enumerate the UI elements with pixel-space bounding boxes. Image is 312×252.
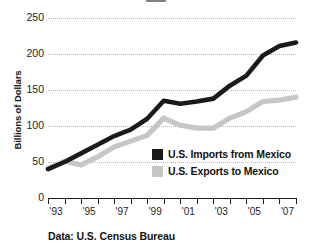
- x-tick-label: '95: [74, 206, 104, 217]
- legend: U.S. Imports from Mexico U.S. Exports to…: [152, 146, 291, 180]
- x-tick-label: '07: [272, 206, 302, 217]
- x-tick: [164, 198, 165, 204]
- y-tick-label: 250: [4, 11, 44, 23]
- legend-label-imports: U.S. Imports from Mexico: [168, 148, 291, 160]
- x-tick: [180, 198, 181, 204]
- x-tick: [230, 198, 231, 204]
- y-axis-tick-labels: 050100150200250: [2, 18, 44, 198]
- x-tick: [263, 198, 264, 204]
- y-tick-label: 50: [4, 155, 44, 167]
- x-tick-label: '93: [41, 206, 71, 217]
- x-tick: [246, 198, 247, 204]
- x-tick: [296, 198, 297, 204]
- x-tick: [98, 198, 99, 204]
- x-tick: [65, 198, 66, 204]
- y-tick-label: 100: [4, 119, 44, 131]
- x-tick: [114, 198, 115, 204]
- x-tick-label: '01: [173, 206, 203, 217]
- x-tick: [147, 198, 148, 204]
- source-note: Data: U.S. Census Bureau: [48, 230, 175, 242]
- x-tick-label: '03: [206, 206, 236, 217]
- x-tick-label: '99: [140, 206, 170, 217]
- x-tick: [197, 198, 198, 204]
- x-axis-line: [48, 198, 296, 199]
- x-tick: [131, 198, 132, 204]
- x-tick-label: '05: [239, 206, 269, 217]
- cropped-title-sliver: [146, 0, 166, 2]
- y-tick-label: 150: [4, 83, 44, 95]
- legend-item-imports: U.S. Imports from Mexico: [152, 146, 291, 162]
- y-tick-label: 0: [4, 191, 44, 203]
- x-tick: [213, 198, 214, 204]
- legend-swatch-exports: [152, 166, 163, 177]
- chart-figure: Billions of Dollars 050100150200250 U.S.…: [0, 0, 312, 252]
- legend-label-exports: U.S. Exports to Mexico: [168, 165, 278, 177]
- x-tick: [48, 198, 49, 204]
- legend-swatch-imports: [152, 149, 163, 160]
- x-tick: [81, 198, 82, 204]
- x-tick: [279, 198, 280, 204]
- x-tick-label: '97: [107, 206, 137, 217]
- legend-item-exports: U.S. Exports to Mexico: [152, 163, 291, 179]
- y-tick-label: 200: [4, 47, 44, 59]
